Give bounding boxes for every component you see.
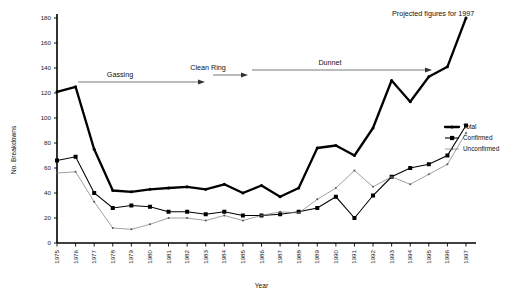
y-tick-label: 100 [41,114,52,121]
x-tick-label: 1995 [425,249,432,263]
x-tick-label: 1992 [369,249,376,263]
data-point [149,223,151,225]
annotation-arrow-head [425,67,432,72]
data-point [278,212,282,216]
x-tick-label: 1978 [109,249,116,263]
legend-swatch-marker [451,148,453,150]
annotation-gassing: Gassing [78,70,205,85]
annotation-dunnet: Dunnet [252,58,432,73]
data-point [260,184,263,187]
x-tick-label: 1977 [90,249,97,263]
data-point [148,188,151,191]
data-point [167,210,171,214]
x-tick-label: 1975 [53,249,60,263]
data-point [316,147,319,150]
data-point [352,216,356,220]
data-point [390,79,393,82]
data-point [130,228,132,230]
data-point [315,206,319,210]
data-point [93,148,96,151]
data-point [74,85,77,88]
data-point [75,171,77,173]
chart-canvas: 020406080100120140160180No. Breakdowns19… [0,0,524,296]
data-point [279,195,282,198]
legend-swatch-marker [450,136,454,140]
data-point [297,187,300,190]
data-point [408,166,412,170]
data-point [93,201,95,203]
data-point [279,211,281,213]
data-point [186,217,188,219]
data-point [427,75,430,78]
data-point [316,198,318,200]
legend-label: Total [463,123,477,130]
y-tick-label: 80 [44,139,51,146]
x-tick-label: 1990 [332,249,339,263]
series-confirmed [55,124,468,221]
x-tick-label: 1987 [276,249,283,263]
y-tick-label: 180 [41,14,52,21]
legend-label: Confirmed [463,134,493,141]
x-tick-label: 1983 [202,249,209,263]
data-point [222,210,226,214]
y-tick-label: 160 [41,39,52,46]
annotation-label: Dunnet [318,58,341,67]
data-point [204,188,207,191]
x-tick-label: 1991 [350,249,357,263]
data-point [334,195,338,199]
data-point [223,183,226,186]
data-point [445,154,449,158]
data-point [111,206,115,210]
series-line-total [57,18,466,197]
data-point [446,163,448,165]
x-tick-label: 1985 [239,249,246,263]
data-point [353,154,356,157]
data-point [409,100,412,103]
y-axis-title: No. Breakdowns [10,125,17,174]
data-point [371,194,375,198]
x-tick-label: 1997 [462,249,469,263]
data-point [167,187,170,190]
breakdowns-line-chart: 020406080100120140160180No. Breakdowns19… [0,0,524,296]
data-point [129,204,133,208]
data-point [446,65,449,68]
legend-label: Unconfirmed [463,145,500,152]
series-total [56,17,468,199]
x-tick-label: 1986 [258,249,265,263]
y-tick-label: 20 [44,214,51,221]
data-point [92,191,96,195]
x-tick-label: 1993 [388,249,395,263]
data-point [111,189,114,192]
x-tick-label: 1980 [146,249,153,263]
data-point [186,185,189,188]
series-line-confirmed [57,126,466,219]
data-point [241,214,245,218]
x-tick-label: 1989 [313,249,320,263]
data-point [353,170,355,172]
data-point [168,217,170,219]
annotation-arrow-head [241,72,248,77]
data-point [74,155,78,159]
projected-note: Projected figures for 1997 [392,9,474,18]
x-tick-label: 1984 [220,249,227,263]
legend-item-total[interactable]: Total [445,123,477,130]
legend-item-confirmed[interactable]: Confirmed [445,134,493,141]
data-point [148,205,152,209]
x-tick-label: 1994 [406,249,413,263]
x-tick-label: 1996 [443,249,450,263]
x-tick-label: 1979 [127,249,134,263]
data-point [261,215,263,217]
data-point [112,227,114,229]
data-point [185,210,189,214]
y-tick-label: 40 [44,189,51,196]
data-point [56,172,58,174]
annotation-label: Clean Ring [190,63,226,72]
data-point [427,162,431,166]
data-point [56,90,59,93]
annotation-label: Gassing [107,70,133,79]
data-point [298,212,300,214]
x-tick-label: 1981 [165,249,172,263]
data-point [241,192,244,195]
data-point [335,187,337,189]
y-tick-label: 0 [48,239,52,246]
